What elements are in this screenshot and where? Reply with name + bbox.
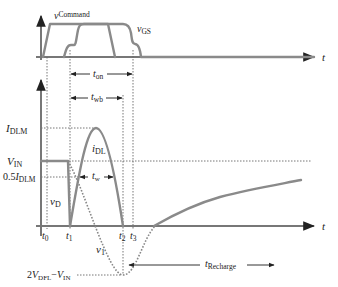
min-level-label: 2VDFL−VIN — [27, 269, 70, 282]
t-recharge-label: tRecharge — [205, 258, 237, 271]
t-on-label: ton — [93, 68, 104, 81]
recharge-waveform — [154, 180, 301, 226]
t-wb-label: twb — [91, 91, 103, 104]
v-d-waveform — [41, 161, 70, 226]
timing-diagram: t vCommand vGS ton twb — [0, 0, 338, 287]
top-t-axis-label: t — [322, 51, 326, 63]
v-command-label: vCommand — [54, 10, 90, 21]
bottom-panel: t IDLM VIN 0.5IDLM 2VDFL−VIN iDL vD v1 — [3, 80, 326, 282]
t-w-label: tw — [92, 170, 101, 183]
bottom-t-axis-label: t — [322, 220, 326, 232]
i-dl-label: iDL — [92, 142, 106, 156]
half-idlm-label: 0.5IDLM — [3, 171, 36, 184]
t0-label: t0 — [42, 230, 49, 243]
interval-arrows: ton twb tw tRecharge — [71, 68, 274, 271]
v1-waveform — [68, 161, 155, 275]
v-gs-waveform — [64, 24, 314, 57]
v-gs-label: vGS — [137, 23, 151, 36]
vin-label: VIN — [7, 155, 22, 169]
idlm-label: IDLM — [5, 122, 27, 136]
v-d-label: vD — [50, 195, 61, 209]
vertical-guides — [47, 50, 133, 275]
top-panel: t vCommand vGS — [36, 10, 326, 63]
t1-label: t1 — [66, 230, 73, 243]
v1-label: v1 — [96, 243, 105, 257]
t3-label: t3 — [130, 230, 137, 243]
t2-label: t2 — [119, 230, 126, 243]
